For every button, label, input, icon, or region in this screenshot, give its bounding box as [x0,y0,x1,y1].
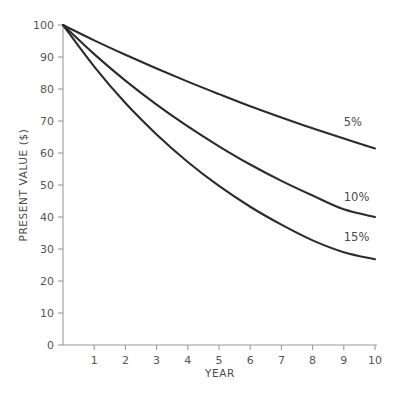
present-value-chart: 0102030405060708090100 12345678910 5%10%… [0,0,406,396]
y-tick-label: 0 [47,339,54,352]
x-tick-label: 7 [278,354,285,367]
x-tick-label: 5 [216,354,223,367]
y-axis-ticks [58,25,63,345]
y-tick-label: 90 [40,51,54,64]
series-labels: 5%10%15% [344,115,370,244]
y-axis-tick-labels: 0102030405060708090100 [33,19,54,352]
series-label-15pct: 15% [344,230,370,244]
x-tick-label: 10 [368,354,382,367]
x-tick-label: 1 [91,354,98,367]
x-tick-label: 6 [247,354,254,367]
y-tick-label: 40 [40,211,54,224]
series-label-10pct: 10% [344,190,370,204]
series-curve-15pct [63,25,375,259]
y-axis-title: PRESENT VALUE ($) [17,129,29,242]
y-tick-label: 10 [40,307,54,320]
y-tick-label: 50 [40,179,54,192]
y-axis: 0102030405060708090100 [33,19,63,352]
y-tick-label: 20 [40,275,54,288]
y-tick-label: 100 [33,19,54,32]
x-axis: 12345678910 [63,345,382,367]
series-curves [63,25,375,259]
series-curve-10pct [63,25,375,217]
series-label-5pct: 5% [344,115,362,129]
x-tick-label: 9 [340,354,347,367]
y-tick-label: 60 [40,147,54,160]
x-axis-title: YEAR [204,367,235,379]
x-axis-ticks [94,345,375,350]
x-tick-label: 8 [309,354,316,367]
x-tick-label: 3 [153,354,160,367]
x-axis-tick-labels: 12345678910 [91,354,382,367]
x-tick-label: 2 [122,354,129,367]
y-tick-label: 80 [40,83,54,96]
y-tick-label: 70 [40,115,54,128]
y-tick-label: 30 [40,243,54,256]
x-tick-label: 4 [184,354,191,367]
chart-canvas: 0102030405060708090100 12345678910 5%10%… [0,0,406,396]
